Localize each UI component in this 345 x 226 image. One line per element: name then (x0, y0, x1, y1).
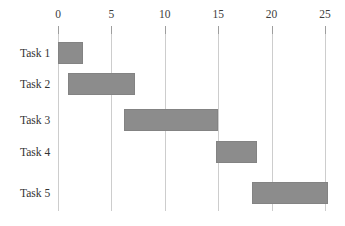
task-bar (58, 42, 83, 64)
axis-tick (165, 26, 166, 34)
axis-tick-label: 25 (319, 7, 331, 21)
axis-tick (325, 26, 326, 34)
axis-tick (111, 26, 112, 34)
task-label: Task 2 (20, 77, 50, 91)
axis-tick (218, 26, 219, 34)
gridline (218, 26, 219, 211)
axis-tick-label: 10 (159, 7, 171, 21)
task-label: Task 5 (20, 186, 50, 200)
gridline (111, 26, 112, 211)
axis-tick-label: 0 (55, 7, 61, 21)
task-bar (216, 141, 257, 163)
task-label: Task 3 (20, 113, 50, 127)
axis-tick-label: 15 (212, 7, 224, 21)
task-label: Task 4 (20, 145, 50, 159)
task-bar (252, 182, 328, 204)
gantt-chart: 0510152025 Task 1Task 2Task 3Task 4Task … (0, 0, 345, 226)
task-label: Task 1 (20, 46, 50, 60)
axis-tick-label: 20 (266, 7, 278, 21)
task-bar (124, 109, 218, 131)
axis-tick-label: 5 (109, 7, 115, 21)
axis-tick (272, 26, 273, 34)
axis-tick (58, 26, 59, 34)
task-bar (68, 73, 135, 95)
